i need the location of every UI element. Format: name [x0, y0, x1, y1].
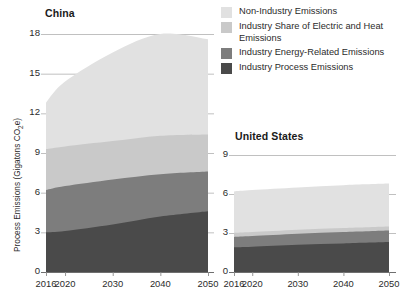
- y-tick-label-3: 3: [206, 226, 228, 237]
- y-tick-label-15: 15: [18, 67, 40, 78]
- area-chart-united-states: [220, 0, 410, 306]
- x-tick-label-2040: 2040: [326, 278, 360, 289]
- y-tick-label-9: 9: [18, 146, 40, 157]
- y-tick-label-0: 0: [206, 265, 228, 276]
- x-tick-label-2020: 2020: [235, 278, 269, 289]
- chart-title-china: China: [45, 7, 75, 19]
- chart-title-united-states: United States: [235, 130, 303, 142]
- y-tick-label-18: 18: [18, 27, 40, 38]
- x-tick-label-2040: 2040: [143, 278, 177, 289]
- x-tick-label-2030: 2030: [96, 278, 130, 289]
- y-tick-label-12: 12: [18, 106, 40, 117]
- y-tick-label-6: 6: [206, 187, 228, 198]
- x-tick-label-2020: 2020: [48, 278, 82, 289]
- chart-panel-united-states: United States 036920162020203020402050: [220, 0, 410, 306]
- y-tick-label-9: 9: [206, 148, 228, 159]
- y-tick-label-6: 6: [18, 186, 40, 197]
- x-tick-label-2030: 2030: [281, 278, 315, 289]
- y-tick-label-3: 3: [18, 225, 40, 236]
- chart-panel-china: China 036912151820162020203020402050: [0, 0, 220, 306]
- area-series-0: [234, 242, 389, 272]
- x-tick-label-2050: 2050: [372, 278, 406, 289]
- y-tick-label-0: 0: [18, 265, 40, 276]
